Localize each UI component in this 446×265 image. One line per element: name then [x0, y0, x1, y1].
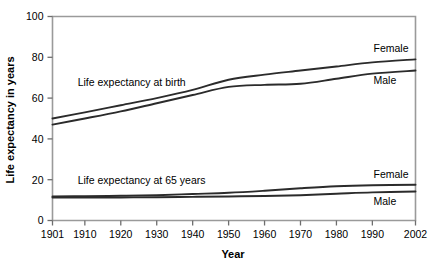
series-end-label-3: Male: [374, 195, 397, 207]
x-tick-label: 1920: [109, 228, 133, 240]
plot-frame: [53, 17, 416, 221]
x-tick-label: 2002: [404, 228, 428, 240]
series-line-life-expectancy-at-65-years-female: [53, 185, 416, 197]
y-tick-label: 60: [32, 92, 44, 104]
y-tick-label: 40: [32, 133, 44, 145]
x-tick-label: 1960: [253, 228, 277, 240]
x-axis-title: Year: [221, 248, 245, 260]
annotation-label-0: Life expectancy at birth: [78, 76, 186, 88]
x-tick-label: 1950: [217, 228, 241, 240]
series-end-label-2: Female: [374, 168, 409, 180]
x-tick-label: 1970: [289, 228, 313, 240]
x-tick-label: 1910: [73, 228, 97, 240]
line-chart-canvas: 020406080100 190119101920193019401950196…: [0, 0, 446, 265]
x-tick-label: 1901: [41, 228, 65, 240]
x-tick-label: 1990: [361, 228, 385, 240]
series-end-label-1: Male: [374, 74, 397, 86]
x-tick-label: 1930: [145, 228, 169, 240]
x-tick-label: 1980: [325, 228, 349, 240]
y-tick-label: 0: [38, 214, 44, 226]
chart-figure: 020406080100 190119101920193019401950196…: [0, 0, 446, 265]
y-axis-title: Life expectancy in years: [4, 56, 16, 183]
series-end-label-0: Female: [374, 42, 409, 54]
y-tick-label: 80: [32, 51, 44, 63]
y-axis-tick-labels: 020406080100: [26, 10, 44, 226]
x-axis-tick-labels: 1901191019201930194019501960197019801990…: [41, 228, 428, 240]
y-tick-label: 20: [32, 174, 44, 186]
x-tick-label: 1940: [181, 228, 205, 240]
axis-frame: [53, 17, 416, 221]
series-end-labels: FemaleMaleFemaleMale: [374, 42, 409, 206]
annotation-label-1: Life expectancy at 65 years: [78, 174, 206, 186]
series-line-life-expectancy-at-birth-female: [53, 59, 416, 118]
y-tick-label: 100: [26, 10, 44, 22]
